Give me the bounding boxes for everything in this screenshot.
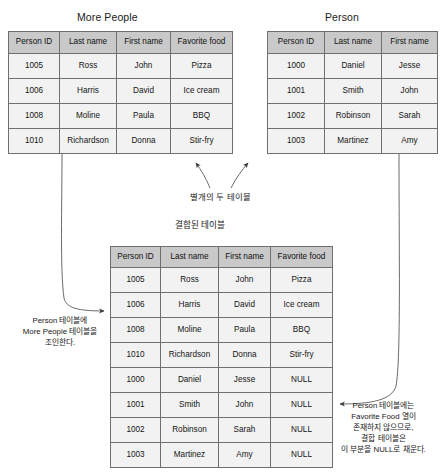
table-cell-null: NULL (271, 368, 333, 393)
table-cell: Pizza (271, 268, 333, 293)
column-header: Favorite food (171, 32, 233, 54)
table-cell: Martinez (161, 443, 219, 468)
table-row: 1010 Richardson Donna Stir-fry (9, 129, 233, 154)
separate-tables-label: 별개의 두 테이블 (0, 192, 441, 204)
table-cell: Jesse (219, 368, 271, 393)
table-cell: Stir-fry (271, 343, 333, 368)
table-cell: Ice cream (171, 79, 233, 104)
table-cell: Smith (325, 79, 382, 104)
join-diagram: More People Person Person ID Last name F… (0, 0, 441, 476)
table-row: 1008 Moline Paula BBQ (9, 104, 233, 129)
table-cell: 1006 (9, 79, 60, 104)
table-cell: Amy (382, 129, 438, 154)
table-cell: Ross (161, 268, 219, 293)
table-row: 1008 Moline Paula BBQ (111, 318, 333, 343)
table-row: 1001 Smith John (268, 79, 438, 104)
table-cell: Stir-fry (171, 129, 233, 154)
table-cell: Donna (117, 129, 171, 154)
table-cell: 1005 (111, 268, 161, 293)
table-cell: Paula (117, 104, 171, 129)
table-cell: Sarah (219, 418, 271, 443)
table-cell: Amy (219, 443, 271, 468)
table-cell: Harris (161, 293, 219, 318)
joined-table: Person ID Last name First name Favorite … (110, 246, 333, 468)
table-cell-null: NULL (271, 418, 333, 443)
column-header: First name (382, 32, 438, 54)
person-table-title: Person (325, 11, 359, 23)
table-cell: 1003 (111, 443, 161, 468)
table-row: 1002 Robinson Sarah NULL (111, 418, 333, 443)
table-cell: Smith (161, 393, 219, 418)
table-cell: Jesse (382, 54, 438, 79)
table-cell: John (382, 79, 438, 104)
table-row: 1005 Ross John Pizza (9, 54, 233, 79)
right-annotation-null-note: Person 테이블에는 Favorite Food 열이 존재하지 않으므로,… (326, 400, 441, 455)
table-cell: 1002 (111, 418, 161, 443)
table-cell: 1003 (268, 129, 325, 154)
table-cell: John (219, 268, 271, 293)
table-header-row: Person ID Last name First name Favorite … (9, 32, 233, 54)
column-header: Favorite food (271, 247, 333, 268)
column-header: Last name (325, 32, 382, 54)
table-cell: Pizza (171, 54, 233, 79)
column-header: Last name (60, 32, 117, 54)
table-cell-null: NULL (271, 443, 333, 468)
table-cell: 1006 (111, 293, 161, 318)
left-annotation-join-note: Person 테이블에 More People 테이블을 조인한다. (6, 315, 114, 348)
table-cell: David (117, 79, 171, 104)
table-row: 1000 Daniel Jesse (268, 54, 438, 79)
table-cell: 1000 (111, 368, 161, 393)
table-cell: 1002 (268, 104, 325, 129)
more-people-table-title: More People (77, 11, 138, 23)
table-cell: David (219, 293, 271, 318)
table-cell: Ice cream (271, 293, 333, 318)
table-cell: 1000 (268, 54, 325, 79)
table-row: 1005 Ross John Pizza (111, 268, 333, 293)
table-row: 1001 Smith John NULL (111, 393, 333, 418)
table-cell: Harris (60, 79, 117, 104)
table-cell: 1001 (268, 79, 325, 104)
table-header-row: Person ID Last name First name Favorite … (111, 247, 333, 268)
table-row: 1003 Martinez Amy NULL (111, 443, 333, 468)
table-cell: John (219, 393, 271, 418)
table-cell: Daniel (325, 54, 382, 79)
table-cell: Richardson (161, 343, 219, 368)
table-cell: 1005 (9, 54, 60, 79)
table-row: 1000 Daniel Jesse NULL (111, 368, 333, 393)
table-cell: Paula (219, 318, 271, 343)
table-cell: 1008 (9, 104, 60, 129)
column-header: Last name (161, 247, 219, 268)
table-cell: Sarah (382, 104, 438, 129)
person-table: Person ID Last name First name 1000 Dani… (267, 31, 438, 154)
more-people-table: Person ID Last name First name Favorite … (8, 31, 233, 154)
table-cell: 1010 (111, 343, 161, 368)
table-cell: Ross (60, 54, 117, 79)
table-row: 1006 Harris David Ice cream (111, 293, 333, 318)
arrow-more-people-to-joined (62, 153, 105, 311)
table-cell: 1001 (111, 393, 161, 418)
table-cell: 1010 (9, 129, 60, 154)
table-cell: Robinson (325, 104, 382, 129)
arrow-to-person (231, 163, 248, 188)
table-cell: Moline (60, 104, 117, 129)
table-cell: Daniel (161, 368, 219, 393)
table-cell-null: NULL (271, 393, 333, 418)
table-cell: BBQ (271, 318, 333, 343)
arrow-to-more-people (196, 163, 210, 188)
column-header: Person ID (268, 32, 325, 54)
table-cell: Martinez (325, 129, 382, 154)
column-header: Person ID (9, 32, 60, 54)
table-header-row: Person ID Last name First name (268, 32, 438, 54)
column-header: Person ID (111, 247, 161, 268)
arrow-person-to-joined (340, 153, 399, 404)
table-cell: Robinson (161, 418, 219, 443)
table-cell: 1008 (111, 318, 161, 343)
table-row: 1002 Robinson Sarah (268, 104, 438, 129)
column-header: First name (219, 247, 271, 268)
table-cell: Donna (219, 343, 271, 368)
table-cell: Richardson (60, 129, 117, 154)
table-row: 1003 Martinez Amy (268, 129, 438, 154)
joined-table-caption: 결합된 테이블 (175, 219, 225, 231)
table-row: 1006 Harris David Ice cream (9, 79, 233, 104)
table-cell: BBQ (171, 104, 233, 129)
